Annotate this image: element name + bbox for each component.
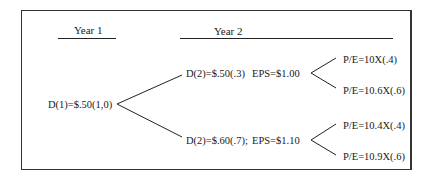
branch-2-outcome-2: P/E=10.9X(.6) bbox=[343, 151, 405, 163]
branch-2-outcome-1: P/E=10.4X(.4) bbox=[343, 120, 405, 132]
branch-1-eps: EPS=$1.00 bbox=[252, 68, 300, 80]
branch-1-outcome-1: P/E=10X(.4) bbox=[343, 54, 397, 66]
header-year-2: Year 2 bbox=[214, 25, 243, 37]
branch-1-dividend: D(2)=$.50(.3) bbox=[186, 68, 245, 80]
root-node: D(1)=$.50(1,0) bbox=[48, 99, 112, 111]
branch-1-outcome-2: P/E=10.6X(.6) bbox=[343, 85, 405, 97]
header-year-1: Year 1 bbox=[74, 24, 103, 36]
branch-2-dividend: D(2)=$.60(.7); bbox=[186, 135, 248, 147]
branch-2-eps: EPS=$1.10 bbox=[252, 135, 300, 147]
